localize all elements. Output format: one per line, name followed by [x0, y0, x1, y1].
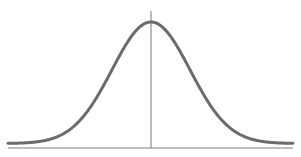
normal-distribution-chart: [0, 0, 301, 157]
